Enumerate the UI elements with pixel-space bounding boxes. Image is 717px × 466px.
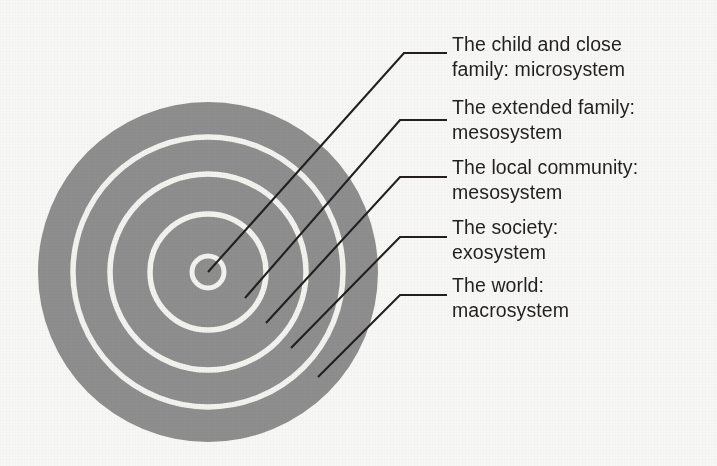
label-mesosystem-local-community-line1: The local community: <box>452 155 638 180</box>
label-mesosystem-extended-family-line1: The extended family: <box>452 95 635 120</box>
ecological-systems-figure: The child and close family: microsystem … <box>0 0 717 466</box>
label-mesosystem-local-community: The local community: mesosystem <box>452 155 638 205</box>
label-mesosystem-local-community-line2: mesosystem <box>452 180 638 205</box>
label-mesosystem-extended-family-line2: mesosystem <box>452 120 635 145</box>
label-microsystem-line2: family: microsystem <box>452 57 625 82</box>
label-mesosystem-extended-family: The extended family: mesosystem <box>452 95 635 145</box>
label-exosystem-line1: The society: <box>452 215 558 240</box>
label-microsystem: The child and close family: microsystem <box>452 32 625 82</box>
label-exosystem-line2: exosystem <box>452 240 558 265</box>
label-microsystem-line1: The child and close <box>452 32 625 57</box>
label-macrosystem: The world: macrosystem <box>452 273 569 323</box>
label-macrosystem-line1: The world: <box>452 273 569 298</box>
label-exosystem: The society: exosystem <box>452 215 558 265</box>
label-macrosystem-line2: macrosystem <box>452 298 569 323</box>
